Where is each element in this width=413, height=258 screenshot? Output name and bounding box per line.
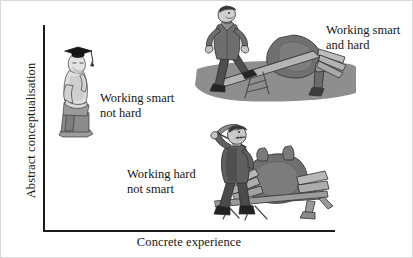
x-axis-line	[43, 230, 335, 232]
thinker-with-graduation-cap-illustration	[53, 45, 105, 139]
label-working-smart-not-hard: Working smart not hard	[100, 91, 174, 121]
man-with-lever-and-boulder-illustration	[193, 5, 359, 109]
learning-styles-quadrant-figure: Abstract conceptualisation Concrete expe…	[0, 0, 413, 258]
x-axis-label: Concrete experience	[89, 235, 289, 250]
label-working-hard-not-smart: Working hard not smart	[127, 167, 196, 197]
y-axis-line	[43, 25, 45, 232]
y-axis-label: Abstract conceptualisation	[24, 41, 39, 221]
man-dragging-boulder-illustration	[197, 119, 337, 227]
